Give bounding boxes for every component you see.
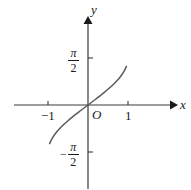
y-tick-label-pi-over-2: π 2 [67,47,79,74]
y-axis-label: y [91,3,97,16]
x-tick-label-neg1: −1 [41,109,55,122]
origin-label: O [92,108,101,121]
x-axis-label: x [180,98,186,111]
x-axis-arrowhead [170,101,178,110]
y-tick-label-neg-pi-over-2: − π 2 [60,141,79,168]
neg-pi-over-2-sign: − [60,148,67,161]
neg-pi-over-2-denominator: 2 [68,155,78,168]
pi-over-2-numerator: π [68,47,78,60]
graph-figure: y x O −1 1 π 2 − π 2 [0,0,191,190]
neg-pi-over-2-numerator: π [68,141,78,154]
coordinate-plot [0,0,191,190]
y-axis-arrowhead [84,16,93,24]
pi-over-2-denominator: 2 [69,61,79,74]
x-tick-label-pos1: 1 [125,109,132,122]
